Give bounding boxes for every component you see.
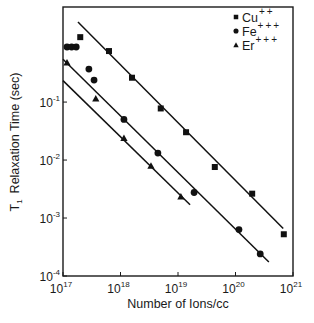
y-tick-base: 10 [40, 270, 54, 284]
x-tick-exponent: 18 [121, 280, 130, 289]
x-tick-exponent: 21 [293, 280, 302, 289]
data-point-cu [249, 191, 255, 197]
x-tick-exponent: 17 [63, 280, 72, 289]
chart: 10171018101910201021 10-410-310-210-1 Cu… [0, 0, 314, 323]
data-point-fe [191, 189, 198, 196]
x-tick-base: 10 [165, 282, 179, 296]
data-point-cu [158, 105, 164, 111]
y-axis-label-text: Relaxation Time (sec) [8, 73, 22, 194]
x-tick-base: 10 [50, 282, 64, 296]
legend-ion: Er [242, 39, 255, 53]
svg-text:T1Relaxation Time (sec): T1Relaxation Time (sec) [8, 73, 24, 212]
data-point-fe [85, 66, 92, 73]
data-point-fe [236, 226, 243, 233]
y-tick-base: 10 [40, 96, 54, 110]
y-tick-base: 10 [40, 212, 54, 226]
legend-charge: +++ [258, 20, 282, 31]
y-tick-base: 10 [40, 154, 54, 168]
y-tick-exponent: -2 [53, 152, 61, 161]
legend-ion: Fe [242, 25, 257, 39]
data-point-cu [77, 34, 83, 40]
data-point-fe [73, 44, 80, 51]
data-point-cu [183, 129, 189, 135]
x-tick-exponent: 20 [236, 280, 245, 289]
data-point-fe [121, 116, 128, 123]
x-tick-base: 10 [280, 282, 294, 296]
y-tick-exponent: -4 [53, 268, 61, 277]
x-axis-label: Number of Ions/cc [127, 297, 228, 311]
y-tick-exponent: -3 [53, 210, 61, 219]
data-point-fe [257, 251, 264, 258]
data-point-fe [91, 77, 98, 84]
legend-charge: +++ [256, 34, 280, 45]
circle-marker-icon [233, 28, 238, 33]
data-point-cu [129, 75, 135, 81]
x-tick-base: 10 [222, 282, 236, 296]
data-point-fe [154, 150, 161, 157]
data-point-cu [212, 164, 218, 170]
legend-ion: Cu [242, 11, 258, 25]
x-tick-exponent: 19 [178, 280, 187, 289]
legend-charge: ++ [259, 6, 275, 17]
square-marker-icon [234, 15, 239, 20]
data-point-cu [281, 231, 287, 237]
data-point-cu [106, 48, 112, 54]
y-tick-exponent: -1 [53, 94, 61, 103]
x-tick-base: 10 [107, 282, 121, 296]
y-axis-label-subscript: 1 [15, 199, 24, 204]
y-axis-label: T1Relaxation Time (sec) [8, 73, 24, 212]
